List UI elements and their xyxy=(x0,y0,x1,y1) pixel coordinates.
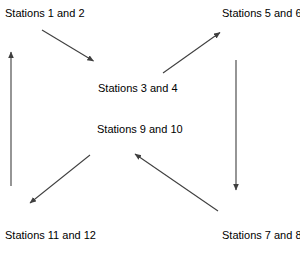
node-label-stations-7-8: Stations 7 and 8 xyxy=(222,229,300,242)
arrow-stations-3-4-to-stations-5-6 xyxy=(163,33,220,74)
arrow-stations-7-8-to-stations-9-10 xyxy=(135,154,218,211)
node-label-stations-9-10: Stations 9 and 10 xyxy=(97,123,183,136)
node-label-stations-11-12: Stations 11 and 12 xyxy=(5,229,96,242)
node-label-stations-1-2: Stations 1 and 2 xyxy=(5,7,85,20)
node-label-stations-5-6: Stations 5 and 6 xyxy=(222,7,300,20)
cycle-flow-diagram: Stations 1 and 2 Stations 5 and 6 Statio… xyxy=(0,0,300,253)
arrow-stations-9-10-to-stations-11-12 xyxy=(30,155,90,203)
arrow-stations-1-2-to-stations-3-4 xyxy=(42,30,94,61)
node-label-stations-3-4: Stations 3 and 4 xyxy=(98,82,178,95)
